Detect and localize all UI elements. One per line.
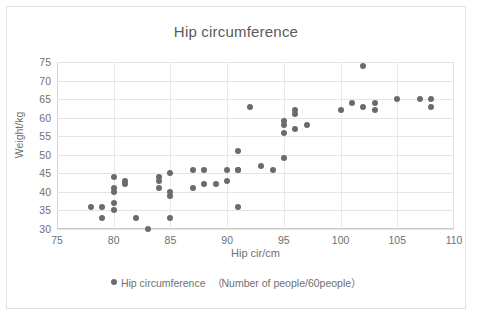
scatter-point (111, 200, 117, 206)
y-axis-label: Weight/kg (13, 112, 25, 159)
scatter-point (122, 181, 128, 187)
x-tick-label: 75 (51, 234, 63, 246)
scatter-point (201, 181, 207, 187)
x-tick-label: 100 (332, 234, 350, 246)
scatter-point (428, 96, 434, 102)
gridline-y (57, 136, 454, 137)
scatter-point (258, 163, 264, 169)
scatter-point (235, 148, 241, 154)
chart-frame: Hip circumference Weight/kg 303540455055… (6, 6, 466, 309)
scatter-point (360, 104, 366, 110)
scatter-point (88, 204, 94, 210)
scatter-point (372, 107, 378, 113)
scatter-point (111, 174, 117, 180)
gridline-y (57, 173, 454, 174)
scatter-point (111, 207, 117, 213)
scatter-point (156, 178, 162, 184)
x-tick-label: 110 (446, 234, 463, 246)
scatter-point (190, 185, 196, 191)
gridline-y (57, 62, 454, 63)
y-tick-label: 65 (39, 93, 51, 105)
x-tick-label: 85 (165, 234, 177, 246)
scatter-point (235, 167, 241, 173)
scatter-point (167, 193, 173, 199)
scatter-point (167, 170, 173, 176)
plot-area: 30354045505560657075 7580859095100105110 (57, 62, 454, 229)
plot-border-left (57, 62, 58, 229)
gridline-x (341, 62, 342, 229)
gridline-x (397, 62, 398, 229)
plot-border-right (453, 62, 454, 229)
scatter-point (213, 181, 219, 187)
y-tick-label: 40 (39, 186, 51, 198)
x-tick-label: 80 (108, 234, 120, 246)
scatter-point (270, 167, 276, 173)
x-tick-label: 105 (389, 234, 407, 246)
scatter-point (394, 96, 400, 102)
scatter-point (428, 104, 434, 110)
scatter-point (281, 122, 287, 128)
scatter-point (190, 167, 196, 173)
scatter-point (281, 130, 287, 136)
scatter-point (145, 226, 151, 232)
scatter-point (133, 215, 139, 221)
scatter-point (247, 104, 253, 110)
scatter-point (304, 122, 310, 128)
scatter-point (224, 178, 230, 184)
gridline-y (57, 155, 454, 156)
gridline-x (284, 62, 285, 229)
legend-note: （Number of people/60people） (212, 277, 362, 289)
scatter-point (360, 63, 366, 69)
gridline-y (57, 118, 454, 119)
scatter-point (281, 155, 287, 161)
x-axis-label: Hip cir/cm (57, 247, 454, 259)
scatter-point (201, 167, 207, 173)
scatter-point (338, 107, 344, 113)
y-tick-label: 60 (39, 112, 51, 124)
chart-legend: Hip circumference（Number of people/60peo… (7, 275, 465, 290)
gridline-x (170, 62, 171, 229)
scatter-point (372, 100, 378, 106)
y-tick-label: 45 (39, 167, 51, 179)
scatter-point (292, 126, 298, 132)
scatter-point (156, 185, 162, 191)
y-tick-label: 35 (39, 204, 51, 216)
scatter-point (349, 100, 355, 106)
chart-title: Hip circumference (7, 23, 465, 40)
y-tick-label: 70 (39, 75, 51, 87)
y-tick-label: 75 (39, 56, 51, 68)
scatter-point (417, 96, 423, 102)
legend-series-label: Hip circumference (121, 277, 206, 289)
gridline-y (57, 229, 454, 230)
scatter-point (99, 204, 105, 210)
scatter-point (167, 215, 173, 221)
y-tick-label: 55 (39, 130, 51, 142)
gridline-y (57, 81, 454, 82)
gridline-x (227, 62, 228, 229)
x-tick-label: 90 (221, 234, 233, 246)
y-tick-label: 30 (39, 223, 51, 235)
scatter-point (292, 111, 298, 117)
scatter-point (235, 204, 241, 210)
scatter-point (224, 167, 230, 173)
scatter-point (111, 189, 117, 195)
x-tick-label: 95 (278, 234, 290, 246)
y-tick-label: 50 (39, 149, 51, 161)
scatter-point (99, 215, 105, 221)
filled-circle-icon (111, 279, 117, 285)
